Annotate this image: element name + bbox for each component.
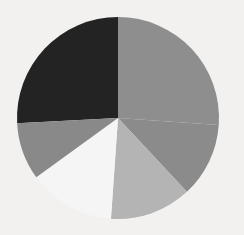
pie-slice-2[interactable] — [118, 17, 219, 125]
pie-chart-figure — [0, 0, 244, 235]
pie-slice-group — [17, 17, 219, 219]
pie-slice-1[interactable] — [17, 17, 118, 123]
pie-chart-svg — [0, 0, 244, 235]
